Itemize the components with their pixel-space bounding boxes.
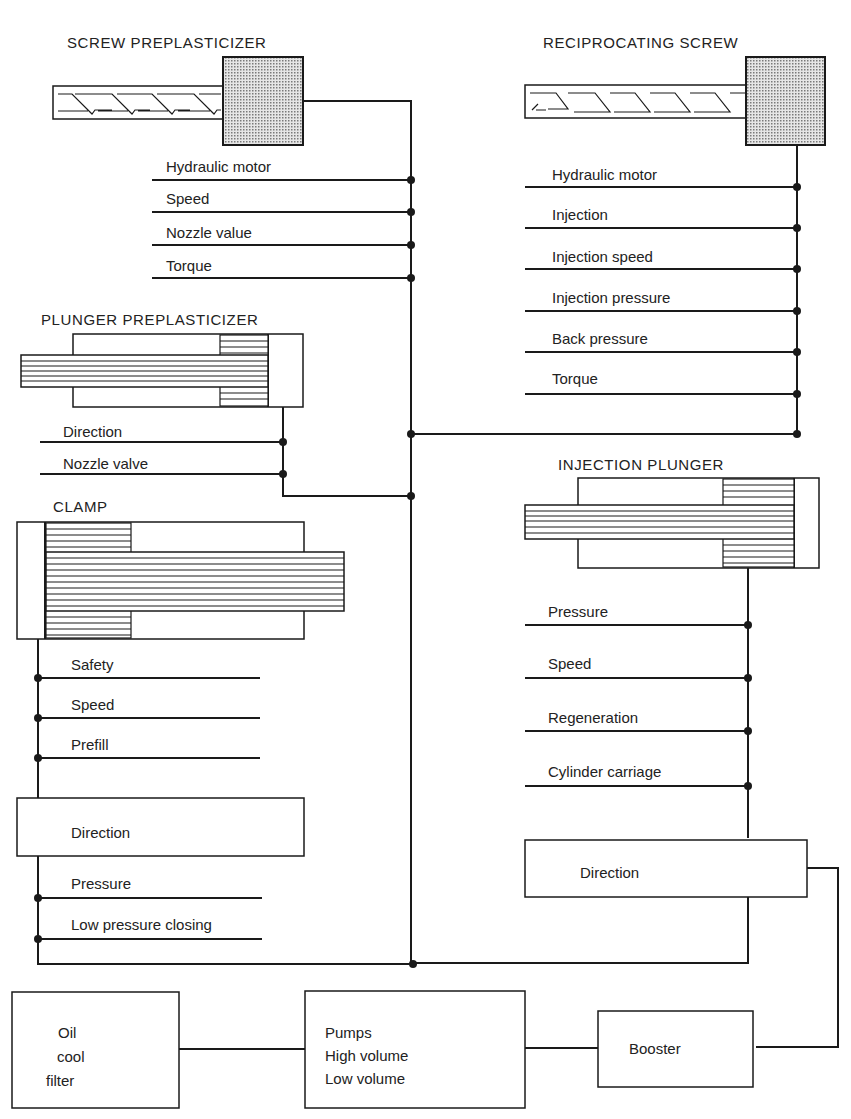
high-volume-label: High volume (325, 1047, 408, 1064)
hydraulic-motor-block-icon (746, 57, 825, 145)
control-label: Regeneration (548, 709, 638, 726)
plunger-preplasticizer: PLUNGER PREPLASTICIZER Direction Nozzle … (21, 311, 415, 500)
clamp: CLAMP Safety Speed Prefill Direction Pre… (17, 498, 417, 968)
control-label: Pressure (548, 603, 608, 620)
hydraulic-motor-block-icon (223, 57, 303, 145)
clamp-cylinder-icon (17, 522, 344, 639)
screw-barrel-icon (525, 85, 747, 118)
booster-label: Booster (629, 1040, 681, 1057)
control-label: Speed (71, 696, 114, 713)
oil-label: Oil (58, 1024, 76, 1041)
booster-box: Booster (598, 1011, 753, 1087)
hydraulic-control-diagram: SCREW PREPLASTICIZER Hydraulic motor Spe… (0, 0, 851, 1119)
low-volume-label: Low volume (325, 1070, 405, 1087)
control-label: Torque (166, 257, 212, 274)
control-label: Injection speed (552, 248, 653, 265)
cool-label: cool (57, 1048, 85, 1065)
control-label: Nozzle valve (63, 455, 148, 472)
plunger-preplasticizer-title: PLUNGER PREPLASTICIZER (41, 311, 258, 328)
oil-cool-filter-box: Oil cool filter (12, 992, 179, 1108)
injection-plunger-title: INJECTION PLUNGER (558, 456, 724, 473)
screw-barrel-icon (53, 86, 223, 119)
control-label: Hydraulic motor (166, 158, 271, 175)
control-label: Hydraulic motor (552, 166, 657, 183)
control-label: Injection pressure (552, 289, 670, 306)
pumps-label: Pumps (325, 1024, 372, 1041)
control-label: Injection (552, 206, 608, 223)
reciprocating-screw: RECIPROCATING SCREW Hydraulic motor Inje… (407, 34, 825, 438)
injection-direction-label: Direction (580, 864, 639, 881)
control-label: Torque (552, 370, 598, 387)
power-unit: Oil cool filter Pumps High volume Low vo… (12, 991, 753, 1108)
control-label: Speed (548, 655, 591, 672)
injection-cylinder-icon (525, 478, 819, 568)
control-label: Cylinder carriage (548, 763, 661, 780)
control-label: Safety (71, 656, 114, 673)
screw-preplasticizer-title: SCREW PREPLASTICIZER (67, 34, 267, 51)
injection-direction-valve: Direction (525, 840, 807, 897)
filter-label: filter (46, 1072, 74, 1089)
clamp-direction-label: Direction (71, 824, 130, 841)
pumps-box: Pumps High volume Low volume (305, 991, 525, 1108)
clamp-direction-valve: Direction (17, 798, 304, 856)
control-label: Low pressure closing (71, 916, 212, 933)
injection-plunger: INJECTION PLUNGER Pressure Speed Regener… (411, 456, 838, 1047)
reciprocating-screw-controls: Hydraulic motor Injection Injection spee… (525, 166, 801, 398)
control-label: Direction (63, 423, 122, 440)
injection-plunger-controls: Pressure Speed Regeneration Cylinder car… (525, 603, 752, 790)
clamp-pressure-controls: Pressure Low pressure closing (34, 875, 262, 943)
plunger-preplasticizer-controls: Direction Nozzle valve (40, 423, 287, 478)
clamp-controls: Safety Speed Prefill (34, 656, 260, 762)
plunger-cylinder-icon (21, 334, 303, 407)
control-label: Pressure (71, 875, 131, 892)
clamp-title: CLAMP (53, 498, 108, 515)
control-label: Prefill (71, 736, 109, 753)
screw-preplasticizer-controls: Hydraulic motor Speed Nozzle value Torqu… (152, 158, 415, 282)
control-label: Nozzle value (166, 224, 252, 241)
control-label: Back pressure (552, 330, 648, 347)
reciprocating-screw-title: RECIPROCATING SCREW (543, 34, 739, 51)
control-label: Speed (166, 190, 209, 207)
